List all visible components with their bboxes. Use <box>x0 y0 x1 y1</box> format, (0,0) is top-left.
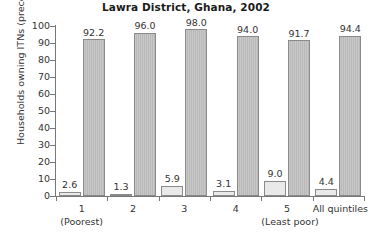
bar[interactable] <box>134 33 156 196</box>
y-tick-label: 0 <box>20 191 50 201</box>
x-tick-label: 3 <box>159 203 210 214</box>
plot-area: 2.692.21.396.05.998.03.194.09.091.74.494… <box>56 26 364 196</box>
y-tick-mark <box>50 179 55 180</box>
bar[interactable] <box>110 194 132 196</box>
y-tick-label: 30 <box>20 140 50 150</box>
bar[interactable] <box>237 36 259 196</box>
x-tick-mark <box>364 196 365 201</box>
bar-value-label: 4.4 <box>309 177 343 187</box>
bar[interactable] <box>264 181 286 196</box>
bar-group: 1.396.0 <box>107 26 158 196</box>
y-tick-label: 20 <box>20 157 50 167</box>
y-tick-label: 80 <box>20 55 50 65</box>
y-axis-tick-labels: 0102030405060708090100 <box>16 0 50 237</box>
y-tick-mark <box>50 43 55 44</box>
bar[interactable] <box>213 191 235 196</box>
bar[interactable] <box>83 39 105 196</box>
bar[interactable] <box>59 192 81 196</box>
bar-value-label: 94.0 <box>231 25 265 35</box>
x-tick-mark <box>56 196 57 201</box>
bar-group: 3.194.0 <box>210 26 261 196</box>
bar[interactable] <box>339 36 361 196</box>
bar[interactable] <box>288 40 310 196</box>
y-tick-label: 40 <box>20 123 50 133</box>
x-tick-label: All quintiles <box>313 203 364 214</box>
y-tick-mark <box>50 162 55 163</box>
y-tick-label: 70 <box>20 72 50 82</box>
y-tick-mark <box>50 111 55 112</box>
x-tick-mark <box>107 196 108 201</box>
x-tick-sublabel: (Least poor) <box>261 216 312 227</box>
x-tick-mark <box>210 196 211 201</box>
y-tick-mark <box>50 77 55 78</box>
y-tick-mark <box>50 196 55 197</box>
chart-container: Lawra District, Ghana, 2002 Households o… <box>0 0 372 237</box>
y-tick-mark <box>50 94 55 95</box>
y-tick-label: 60 <box>20 89 50 99</box>
y-tick-mark <box>50 60 55 61</box>
y-tick-mark <box>50 145 55 146</box>
bar-value-label: 1.3 <box>104 182 138 192</box>
bar-value-label: 91.7 <box>282 29 316 39</box>
y-tick-mark <box>50 26 55 27</box>
x-tick-label: 5 <box>261 203 312 214</box>
chart-title: Lawra District, Ghana, 2002 <box>0 1 372 13</box>
bar-value-label: 94.4 <box>333 24 367 34</box>
x-tick-label: 2 <box>107 203 158 214</box>
bar-value-label: 98.0 <box>179 18 213 28</box>
x-tick-label: 1 <box>56 203 107 214</box>
x-tick-sublabel: (Poorest) <box>56 216 107 227</box>
x-tick-label: 4 <box>210 203 261 214</box>
bar[interactable] <box>185 29 207 196</box>
bar-group: 5.998.0 <box>159 26 210 196</box>
y-tick-label: 10 <box>20 174 50 184</box>
bar-value-label: 96.0 <box>128 21 162 31</box>
bar-group: 9.091.7 <box>261 26 312 196</box>
bar-value-label: 5.9 <box>155 174 189 184</box>
bar-group: 4.494.4 <box>313 26 364 196</box>
bar-value-label: 2.6 <box>53 180 87 190</box>
x-tick-mark <box>313 196 314 201</box>
bar-value-label: 9.0 <box>258 169 292 179</box>
bar[interactable] <box>315 189 337 196</box>
bar-value-label: 3.1 <box>207 179 241 189</box>
x-tick-mark <box>159 196 160 201</box>
y-tick-label: 50 <box>20 106 50 116</box>
x-tick-mark <box>261 196 262 201</box>
y-tick-mark <box>50 128 55 129</box>
bar[interactable] <box>161 186 183 196</box>
bar-group: 2.692.2 <box>56 26 107 196</box>
y-tick-label: 90 <box>20 38 50 48</box>
y-tick-label: 100 <box>20 21 50 31</box>
bar-value-label: 92.2 <box>77 28 111 38</box>
